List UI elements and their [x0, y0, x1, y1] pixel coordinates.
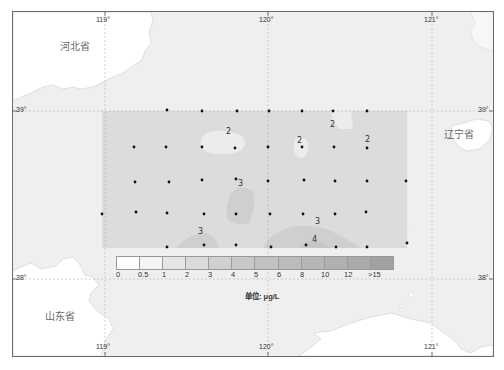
lon-label-bottom-120: 120°	[259, 343, 273, 350]
legend-swatch	[232, 257, 255, 269]
contour-label: 3	[315, 217, 320, 226]
lat-label-right-38: 38°	[478, 274, 489, 281]
legend-tick: 8	[300, 270, 304, 279]
legend-swatch	[255, 257, 278, 269]
legend-tick: 10	[321, 270, 329, 279]
lat-label-right-39: 39°	[478, 106, 489, 113]
legend-tick: >15	[368, 270, 381, 279]
land-shandong	[13, 257, 113, 356]
legend-tick: 2	[185, 270, 189, 279]
contour-label: 2	[226, 127, 231, 136]
legend-tick: 0.5	[138, 270, 148, 279]
legend-swatch	[117, 257, 140, 269]
lon-label-top-119: 119°	[96, 16, 110, 23]
legend-swatch	[371, 257, 393, 269]
color-legend	[116, 256, 394, 270]
legend-swatch	[209, 257, 232, 269]
legend-swatch	[302, 257, 325, 269]
province-label-shandong: 山东省	[45, 308, 75, 323]
province-label-liaoning: 辽宁省	[444, 126, 474, 141]
study-area	[102, 111, 407, 248]
legend-tick: 5	[254, 270, 258, 279]
legend-swatch	[325, 257, 348, 269]
land-liaoning-north	[471, 12, 493, 51]
legend-tick: 4	[231, 270, 235, 279]
legend-swatch	[163, 257, 186, 269]
legend-ticks: 0 0.5 1 2 3 4 5 6 8 10 12 >15	[114, 270, 404, 280]
legend-swatch	[279, 257, 302, 269]
legend-swatch	[348, 257, 371, 269]
legend-tick: 12	[344, 270, 352, 279]
legend-unit: 单位: μg/L	[245, 290, 279, 301]
land-shandong-east	[299, 313, 493, 356]
lat-label-left-38: 38°	[16, 274, 27, 281]
land-hebei	[13, 12, 153, 101]
legend-swatch	[186, 257, 209, 269]
province-label-hebei: 河北省	[60, 38, 90, 53]
lon-label-bottom-121: 121°	[424, 343, 438, 350]
lon-label-top-121: 121°	[424, 16, 438, 23]
legend-tick: 6	[277, 270, 281, 279]
contour-label: 4	[312, 235, 317, 244]
legend-tick: 0	[116, 270, 120, 279]
legend-tick: 3	[208, 270, 212, 279]
contour-label: 2	[365, 135, 370, 144]
lat-label-left-39: 39°	[16, 106, 27, 113]
map-frame	[12, 11, 494, 357]
lon-label-bottom-119: 119°	[96, 343, 110, 350]
lon-label-top-120: 120°	[259, 16, 273, 23]
contour-label: 3	[238, 179, 243, 188]
contour-label: 2	[297, 136, 302, 145]
contour-label: 3	[198, 227, 203, 236]
legend-tick: 1	[162, 270, 166, 279]
legend-swatch	[140, 257, 163, 269]
contour-label: 2	[330, 120, 335, 129]
map-canvas	[13, 12, 493, 356]
